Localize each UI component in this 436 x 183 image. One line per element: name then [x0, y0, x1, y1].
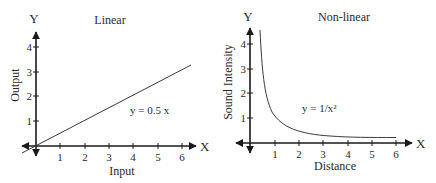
- y-tick-label: 1: [27, 115, 33, 127]
- x-tick-label: 6: [179, 151, 185, 163]
- chart-title: Non-linear: [318, 10, 370, 24]
- y-tick-label: 4: [27, 41, 33, 53]
- x-axis-letter: X: [416, 136, 426, 151]
- y-tick-labels: 1 2 3 4: [27, 41, 33, 127]
- y-axis-label: Output: [8, 68, 22, 102]
- nonlinear-chart: 1 2 3 4 5 6 1 2 3 4 Y X Non-linear Dista…: [221, 9, 426, 173]
- y-tick-label: 1: [241, 112, 247, 124]
- nonlinear-series-curve: [260, 30, 396, 138]
- x-tick-label: 1: [57, 151, 63, 163]
- chart-title: Linear: [94, 13, 125, 27]
- x-tick-label: 2: [82, 151, 88, 163]
- y-tick-label: 3: [27, 66, 33, 78]
- y-axis-letter: Y: [29, 11, 39, 26]
- x-tick-label: 2: [296, 148, 302, 160]
- y-axis-letter: Y: [243, 9, 253, 24]
- equation-annotation: y = 0.5 x: [130, 104, 170, 116]
- equation-annotation: y = 1/x²: [302, 102, 337, 114]
- y-tick-label: 2: [241, 87, 247, 99]
- x-tick-label: 5: [155, 151, 161, 163]
- x-axis-letter: X: [200, 139, 210, 154]
- linear-chart: 1 2 3 4 5 6 1 2 3 4 Y X Linear Input Out…: [8, 11, 210, 178]
- x-tick-labels: 1 2 3 4 5 6: [57, 151, 185, 163]
- x-tick-label: 1: [272, 148, 278, 160]
- figure: 1 2 3 4 5 6 1 2 3 4 Y X Linear Input Out…: [0, 0, 436, 183]
- y-axis-label: Sound Intensity: [221, 44, 235, 120]
- x-tick-label: 3: [106, 151, 112, 163]
- y-tick-label: 4: [241, 38, 247, 50]
- x-axis-label: Input: [109, 164, 135, 178]
- x-tick-label: 5: [369, 148, 375, 160]
- y-tick-label: 3: [241, 63, 247, 75]
- x-tick-label: 4: [130, 151, 136, 163]
- x-tick-label: 6: [393, 148, 399, 160]
- x-axis-label: Distance: [314, 159, 356, 173]
- y-tick-labels: 1 2 3 4: [241, 38, 247, 124]
- y-tick-label: 2: [27, 90, 33, 102]
